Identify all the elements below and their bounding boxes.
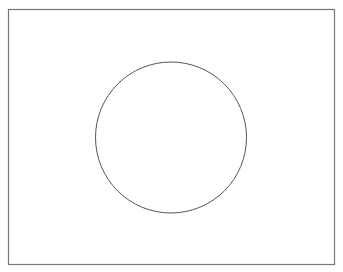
- diagram-canvas: [0, 0, 343, 272]
- canvas-background: [0, 0, 343, 272]
